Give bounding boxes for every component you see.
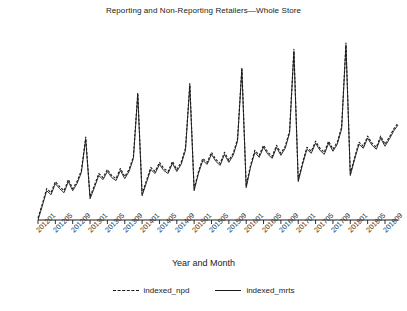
- legend-line-swatch: [113, 287, 139, 295]
- series-group: [38, 43, 398, 220]
- series-line-indexed_npd: [38, 43, 398, 218]
- plot-svg: [0, 0, 407, 230]
- chart-legend: indexed_npdindexed_mrts: [0, 286, 407, 295]
- x-axis-title: Year and Month: [0, 258, 407, 268]
- plot-area: [0, 0, 407, 230]
- legend-label: indexed_npd: [144, 286, 190, 295]
- legend-entry-indexed_npd[interactable]: indexed_npd: [113, 286, 190, 295]
- x-axis-tick-labels: 2012012012052012092013012013052013092014…: [0, 222, 407, 262]
- chart-container: Reporting and Non-Reporting Retailers—Wh…: [0, 0, 407, 311]
- legend-label: indexed_mrts: [246, 286, 294, 295]
- legend-line-swatch: [215, 287, 241, 295]
- legend-entry-indexed_mrts[interactable]: indexed_mrts: [215, 286, 294, 295]
